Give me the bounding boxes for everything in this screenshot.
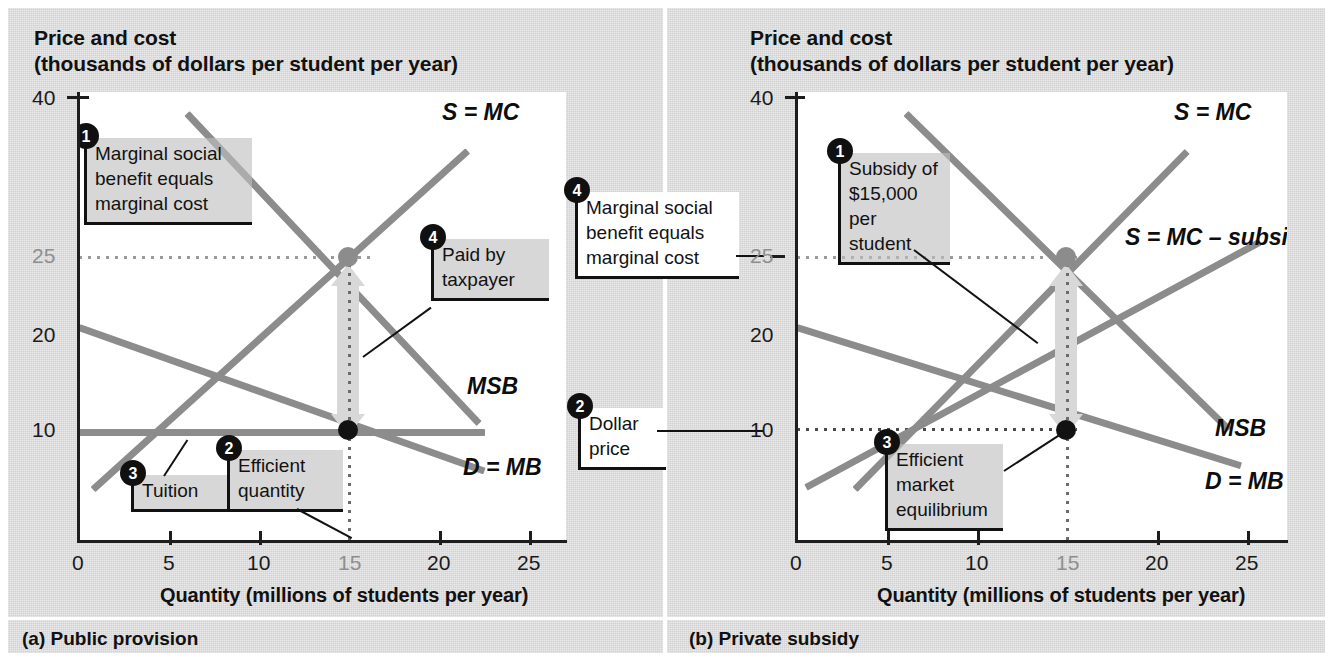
- panel-b-xtick-20: [1157, 531, 1160, 545]
- panel-a-callout-2: 2 Efficient quantity: [227, 450, 343, 512]
- panel-a-label-s-mc: S = MC: [442, 99, 519, 126]
- panel-a-callout-1: 1 Marginal social benefit equals margina…: [84, 138, 252, 225]
- panel-b-x-axis: [795, 540, 1288, 543]
- callout-line-3: per student: [849, 206, 942, 256]
- panel-b-callout-3: 3 Efficient market equilibrium: [885, 444, 1003, 531]
- callout-line-1: Efficient: [896, 447, 995, 472]
- panel-a-xtick-5: [169, 531, 172, 545]
- panel-b-title-line1: Price and cost: [750, 26, 892, 50]
- callout-line-1: Subsidy of: [849, 156, 942, 181]
- curve-d-mb: [797, 324, 1242, 469]
- panel-b-ylabel-25: 25: [750, 244, 773, 268]
- panel-a-caption: (a) Public provision: [22, 628, 198, 650]
- panel-a-xtick-20: [439, 531, 442, 545]
- panel-b-xtick-25: [1247, 531, 1250, 545]
- panel-a-ylabel-10: 10: [32, 418, 55, 442]
- panel-a-x-axis: [77, 540, 567, 543]
- gutter-callout-2: 2 Dollar price: [578, 408, 666, 470]
- badge-number: 2: [216, 435, 242, 461]
- panel-b-ylabel-40: 40: [750, 86, 773, 110]
- callout-line-2: price: [589, 436, 658, 461]
- badge-number: 4: [564, 177, 590, 203]
- panel-b-y-axis: [795, 92, 798, 543]
- callout-line-1: Dollar: [589, 411, 658, 436]
- badge-number: 1: [827, 138, 853, 164]
- panel-a-label-msb: MSB: [467, 373, 518, 400]
- panel-a-title-line1: Price and cost: [34, 26, 176, 50]
- panel-b-xtick-10: [977, 531, 980, 545]
- panel-a-callout-4: 4 Paid by taxpayer: [431, 239, 549, 301]
- panel-b-leader-subsidy: [913, 249, 1038, 344]
- panel-a-leader-efficient-quantity: [297, 508, 353, 539]
- badge-number: 2: [567, 393, 593, 419]
- callout-line-1: Tuition: [142, 478, 221, 503]
- curve-tuition-line: [79, 429, 485, 436]
- panel-b-efficient-point: [1056, 247, 1076, 267]
- callout-line-1: Efficient: [238, 453, 335, 478]
- panel-b-xlabel-0: 0: [790, 551, 802, 575]
- figure-root: Price and cost (thousands of dollars per…: [0, 0, 1333, 659]
- panel-b-caption: (b) Private subsidy: [689, 628, 859, 650]
- panel-b-label-s-mc-subsidy: S = MC – subsidy: [1125, 224, 1287, 251]
- panel-a-xlabel-10: 10: [247, 551, 270, 575]
- panel-a-plot-area: S = MC MSB D = MB 1 Marginal social bene…: [79, 92, 566, 540]
- panel-b-label-msb: MSB: [1215, 415, 1266, 442]
- panel-b-xlabel-20: 20: [1145, 551, 1168, 575]
- panel-a-title-line2: (thousands of dollars per student per ye…: [34, 52, 458, 76]
- panel-b-plot-area: S = MC S = MC – subsidy MSB D = MB 1 Sub…: [797, 92, 1287, 540]
- callout-line-2: market: [896, 472, 995, 497]
- panel-b-leader-equilibrium: [1003, 434, 1059, 472]
- panel-a-xtick-10: [259, 531, 262, 545]
- panel-a-tuition-point: [338, 420, 358, 440]
- badge-number: 3: [120, 460, 146, 486]
- panel-b-xtick-5: [887, 531, 890, 545]
- callout-line-2: benefit equals: [95, 166, 244, 191]
- panel-a-efficient-point: [338, 247, 358, 267]
- panel-b-callout-1: 1 Subsidy of $15,000 per student: [838, 153, 950, 265]
- panel-b-xlabel-5: 5: [881, 551, 893, 575]
- callout-line-2: $15,000: [849, 181, 942, 206]
- panel-a-xtick-25: [529, 531, 532, 545]
- panel-b-ytick-40: [785, 96, 805, 99]
- panel-a-ytick-40: [67, 96, 89, 99]
- panel-b-ylabel-20: 20: [750, 323, 773, 347]
- badge-number: 3: [874, 429, 900, 455]
- panel-b-xaxis-title: Quantity (millions of students per year): [877, 584, 1245, 607]
- panel-private-subsidy: Price and cost (thousands of dollars per…: [667, 0, 1333, 659]
- panel-b-xlabel-15: 15: [1056, 551, 1079, 575]
- panel-b-ref-line-price-10: [797, 428, 1077, 431]
- panel-a-ylabel-40: 40: [32, 86, 55, 110]
- panel-a-leader-tuition: [163, 439, 188, 476]
- callout-line-2: taxpayer: [442, 267, 541, 292]
- panel-a-callout-3: 3 Tuition: [131, 475, 229, 512]
- panel-b-arrow-dotted-core: [1066, 264, 1069, 436]
- panel-a-arrow-dotted-core: [348, 264, 351, 436]
- callout-line-1: Paid by: [442, 242, 541, 267]
- panel-a-ylabel-20: 20: [32, 323, 55, 347]
- panel-a-xlabel-0: 0: [72, 551, 84, 575]
- panel-public-provision: Price and cost (thousands of dollars per…: [0, 0, 667, 659]
- panel-b-market-equilibrium-point: [1056, 420, 1076, 440]
- panel-b-ylabel-10: 10: [750, 418, 773, 442]
- panel-a-xlabel-15: 15: [338, 551, 361, 575]
- panel-b-label-s-mc: S = MC: [1174, 99, 1251, 126]
- callout-line-3: marginal cost: [95, 191, 244, 216]
- panel-a-y-axis: [77, 92, 80, 543]
- panel-a-ylabel-25: 25: [32, 244, 55, 268]
- callout-line-1: Marginal social: [95, 141, 244, 166]
- panel-b-xlabel-10: 10: [965, 551, 988, 575]
- panel-a-label-d-mb: D = MB: [463, 454, 542, 481]
- panel-a-xlabel-20: 20: [427, 551, 450, 575]
- panel-b-label-d-mb: D = MB: [1205, 468, 1284, 495]
- panel-b-xlabel-25: 25: [1235, 551, 1258, 575]
- callout-line-3: equilibrium: [896, 497, 995, 522]
- panel-b-title-line2: (thousands of dollars per student per ye…: [750, 52, 1174, 76]
- callout-line-2: quantity: [238, 478, 335, 503]
- panel-a-xaxis-title: Quantity (millions of students per year): [160, 584, 528, 607]
- panel-a-xlabel-5: 5: [163, 551, 175, 575]
- panel-a-xlabel-25: 25: [517, 551, 540, 575]
- badge-number: 4: [420, 224, 446, 250]
